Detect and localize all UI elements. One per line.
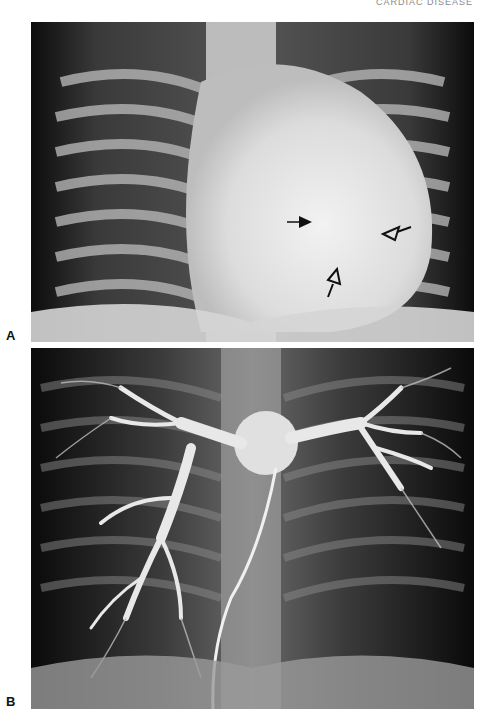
angiogram-b: [31, 348, 474, 709]
radiograph-panel-b: [31, 348, 474, 709]
panel-label-a: A: [6, 328, 15, 343]
radiograph-panel-a: [31, 22, 474, 342]
panel-label-b: B: [6, 694, 15, 709]
chest-xray-a: [31, 22, 474, 342]
running-header: CARDIAC DISEASE: [376, 0, 473, 6]
